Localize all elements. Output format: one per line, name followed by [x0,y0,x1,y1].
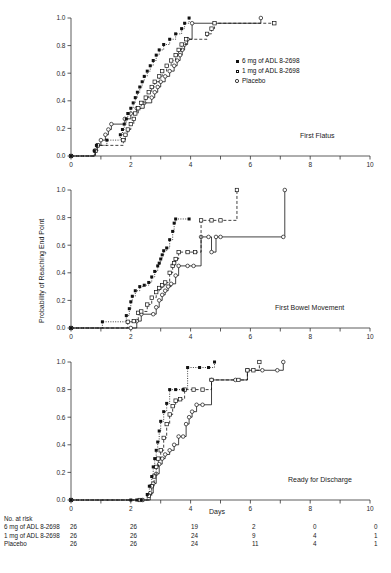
svg-text:2: 2 [129,161,133,168]
svg-text:0: 0 [69,333,73,340]
svg-text:4: 4 [189,333,193,340]
risk-value: 1 [374,532,391,541]
svg-text:0.6: 0.6 [56,242,65,249]
risk-value: 4 [313,540,374,549]
risk-value: 19 [191,523,252,532]
svg-text:0.8: 0.8 [56,42,65,49]
svg-text:0.8: 0.8 [56,214,65,221]
risk-value: 9 [252,532,313,541]
number-at-risk-table: No. at risk 6 mg of ADL 8-26982626192001… [4,515,391,549]
risk-value: 26 [70,540,130,549]
risk-value: 24 [191,532,252,541]
panel-caption-first-bowel-movement: First Bowel Movement [275,304,344,311]
svg-text:0: 0 [69,161,73,168]
svg-text:10: 10 [366,161,374,168]
legend-label-6mg: 6 mg of ADL 8-2698 [242,56,300,66]
plot-area-first-bowel-movement: 02468100.00.20.40.60.81.0 [0,176,391,344]
svg-text:0.4: 0.4 [56,97,65,104]
open-circle-icon [232,79,242,82]
plot-area-ready-for-discharge: 02468100.00.20.40.60.81.0 [0,348,391,516]
plot-area-first-flatus: 02468100.00.20.40.60.81.0 [0,4,391,172]
panel-caption-ready-for-discharge: Ready for Discharge [288,476,352,483]
legend-item-placebo: Placebo [232,76,300,86]
svg-text:6: 6 [249,161,253,168]
svg-text:0.2: 0.2 [56,469,65,476]
svg-text:8: 8 [308,333,312,340]
risk-value: 26 [130,540,191,549]
svg-text:0.0: 0.0 [56,496,65,503]
svg-text:0: 0 [69,505,73,512]
y-axis-label: Probability of Reaching End Point [38,219,45,323]
svg-text:6: 6 [249,333,253,340]
risk-row-label: Placebo [4,540,70,549]
risk-value: 26 [70,532,130,541]
risk-value: 26 [70,523,130,532]
open-square-icon [232,70,242,73]
risk-row-label: 1 mg of ADL 8-2698 [4,532,70,541]
legend-item-1mg: 1 mg of ADL 8-2698 [232,66,300,76]
legend-label-1mg: 1 mg of ADL 8-2698 [242,66,300,76]
risk-table-row: 1 mg of ADL 8-2698262624941 [4,532,391,541]
risk-value: 0 [374,523,391,532]
svg-text:10: 10 [366,505,374,512]
svg-text:0.4: 0.4 [56,269,65,276]
svg-text:1.0: 1.0 [56,14,65,21]
svg-text:8: 8 [308,161,312,168]
svg-text:4: 4 [189,505,193,512]
risk-value: 2 [252,523,313,532]
legend-first-flatus: 6 mg of ADL 8-2698 1 mg of ADL 8-2698 Pl… [232,56,300,86]
risk-value: 26 [130,532,191,541]
svg-text:1.0: 1.0 [56,358,65,365]
svg-text:0.6: 0.6 [56,70,65,77]
svg-text:6: 6 [249,505,253,512]
svg-text:0.8: 0.8 [56,386,65,393]
risk-table-row: Placebo2626241141 [4,540,391,549]
legend-item-6mg: 6 mg of ADL 8-2698 [232,56,300,66]
risk-value: 0 [313,523,374,532]
svg-text:2: 2 [129,333,133,340]
risk-table-title: No. at risk [4,515,391,522]
svg-text:4: 4 [189,161,193,168]
panel-caption-first-flatus: First Flatus [300,132,335,139]
filled-square-icon [232,60,242,63]
svg-text:0.2: 0.2 [56,125,65,132]
risk-value: 4 [313,532,374,541]
svg-text:0.0: 0.0 [56,324,65,331]
svg-text:1.0: 1.0 [56,186,65,193]
risk-value: 1 [374,540,391,549]
svg-text:2: 2 [129,505,133,512]
x-axis-label: Days [209,508,225,515]
svg-text:8: 8 [308,505,312,512]
panel-ready-for-discharge: 02468100.00.20.40.60.81.0 Ready for Disc… [0,348,391,516]
legend-label-placebo: Placebo [242,76,266,86]
risk-value: 11 [252,540,313,549]
svg-text:0.6: 0.6 [56,414,65,421]
risk-row-label: 6 mg of ADL 8-2698 [4,523,70,532]
risk-table-row: 6 mg of ADL 8-2698262619200 [4,523,391,532]
svg-text:0.2: 0.2 [56,297,65,304]
svg-text:0.0: 0.0 [56,152,65,159]
risk-value: 26 [130,523,191,532]
svg-text:10: 10 [366,333,374,340]
panel-first-bowel-movement: 02468100.00.20.40.60.81.0 Probability of… [0,176,391,344]
risk-value: 24 [191,540,252,549]
risk-table: 6 mg of ADL 8-26982626192001 mg of ADL 8… [4,523,391,549]
panel-first-flatus: 02468100.00.20.40.60.81.0 First Flatus 6… [0,4,391,172]
svg-text:0.4: 0.4 [56,441,65,448]
